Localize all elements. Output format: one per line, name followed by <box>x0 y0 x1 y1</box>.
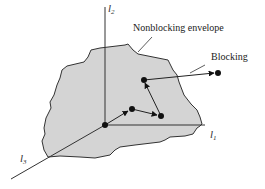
nonblocking-envelope-region <box>42 44 202 158</box>
point-4 <box>141 77 147 83</box>
axis-label-l3: l3 <box>20 152 27 166</box>
point-2 <box>129 106 135 112</box>
leader-blocking <box>190 65 205 73</box>
point-origin <box>102 122 108 128</box>
axis-label-l1: l1 <box>210 128 217 142</box>
axis-label-l2: l2 <box>108 2 115 16</box>
leader-nonblocking <box>138 37 152 52</box>
point-3 <box>158 113 164 119</box>
nonblocking-envelope-diagram: l2 l1 l3 Nonblocking envelope Blocking <box>0 0 265 189</box>
label-nonblocking-envelope: Nonblocking envelope <box>133 22 224 33</box>
label-blocking: Blocking <box>211 51 248 62</box>
point-5-blocking <box>215 70 221 76</box>
